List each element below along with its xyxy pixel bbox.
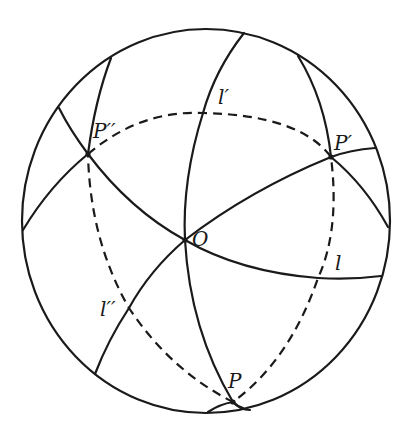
label-p-double-prime: P′′: [92, 119, 116, 143]
point-p: [230, 399, 235, 404]
label-l-prime: l′: [218, 85, 229, 109]
sphere-diagram: O P P′ P′′ l l′ l′′: [0, 0, 410, 439]
label-p-prime: P′: [333, 131, 352, 155]
arc-right-from-p-prime: [331, 157, 388, 227]
point-p-double-prime: [85, 151, 90, 156]
label-l: l: [335, 251, 341, 275]
arc-left-from-p-double-prime: [23, 154, 88, 230]
label-p: P: [227, 369, 242, 393]
point-o: [182, 237, 187, 242]
great-circle-l-prime: [185, 33, 244, 408]
point-p-prime: [328, 154, 333, 159]
label-l-double-prime: l′′: [100, 297, 116, 321]
label-o: O: [192, 227, 208, 251]
sphere-outline: [22, 29, 390, 413]
